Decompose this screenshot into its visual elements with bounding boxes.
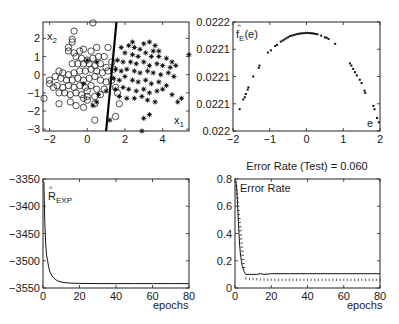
class1-marker [92,73,98,79]
density-point [270,49,272,51]
y-tick-label: −3400 [9,200,40,212]
density-point [356,74,358,76]
y-tick-label: 0 [34,69,40,81]
density-point [350,65,352,67]
risk-plot-panel: 020406080−3550−3500−3450−3400−3350 [9,173,195,302]
density-point [306,32,308,34]
density-point [280,41,282,43]
x-tick-label: 40 [301,290,313,302]
x-tick-label: −1 [263,133,276,145]
density-point [328,38,330,40]
density-plot-panel: −2−10120.0220.02210.02210.02210.0222 [196,16,383,145]
class1-marker [116,101,122,107]
class1-marker [46,81,52,87]
density-point [317,33,319,35]
density-point [247,89,249,91]
y-tick-label: −2 [27,105,40,117]
x-tick-label: 0 [232,290,238,302]
density-point [364,92,366,94]
density-point [298,33,300,35]
y-tick-label: −3350 [9,173,40,185]
density-point [282,40,284,42]
density-hat-icon: ^ [238,23,242,30]
density-point [326,37,328,39]
class1-marker [80,95,86,101]
density-point [302,32,304,34]
density-point [307,32,309,34]
risk-ylabel: REXP [48,190,72,205]
class1-marker [73,102,79,108]
x-tick-label: −2 [43,133,56,145]
density-point [354,71,356,73]
density-point [267,52,269,54]
y-tick-label: 0.4 [217,228,232,240]
density-point [300,32,302,34]
class1-marker [92,117,98,123]
class1-marker [41,95,47,101]
class1-marker [105,44,111,50]
density-point [315,33,317,35]
class1-marker [93,44,99,50]
density-point [296,33,298,35]
y-tick-label: −3450 [9,228,40,240]
density-point [364,90,366,92]
density-ylabel: fE(e) [236,28,258,43]
class1-marker [80,46,86,52]
class1-marker [90,20,96,26]
x-tick-label: 0 [84,133,90,145]
class1-marker [67,99,73,105]
figure: −2024−3−2−1012 −2−10120.0220.02210.02210… [0,0,399,324]
density-point [324,36,326,38]
y-tick-label: −1 [27,87,40,99]
y-tick-label: −3500 [9,255,40,267]
scatter-ylabel: x2 [47,30,58,45]
risk-xlabel: epochs [153,299,189,311]
y-tick-label: 0.0221 [196,71,230,83]
y-tick-label: 2 [34,32,40,44]
x-tick-label: 0 [303,133,309,145]
density-point [276,44,278,46]
x-tick-label: 1 [340,133,346,145]
class1-marker [84,97,90,103]
x-tick-label: 20 [73,290,85,302]
scatter-xlabel: x1 [174,114,185,129]
density-point [291,35,293,37]
density-point [320,35,322,37]
density-point [311,32,313,34]
y-tick-label: 0 [226,282,232,294]
y-tick-label: 0.0221 [196,98,230,110]
density-point [258,65,260,67]
density-point [285,37,287,39]
density-point [372,105,374,107]
x-tick-label: 2 [377,133,383,145]
y-tick-label: 0.2 [217,255,232,267]
density-point [359,79,361,81]
train-error-curve [236,182,380,275]
y-tick-label: 0.0221 [196,43,230,55]
density-point [361,82,363,84]
density-point [294,34,296,36]
density-point [349,62,351,64]
density-point [242,98,244,100]
y-tick-label: 0.022 [202,125,230,137]
error-legend-label: Error Rate [240,182,291,194]
density-point [239,108,241,110]
y-tick-label: 0.8 [217,173,232,185]
density-point [334,43,336,45]
density-point [313,33,315,35]
x-tick-label: 4 [160,133,166,145]
density-point [287,36,289,38]
density-point [244,96,246,98]
density-point [283,38,285,40]
y-tick-label: 0.0222 [196,16,230,28]
class1-marker [112,113,118,119]
class1-marker [88,48,94,54]
density-point [274,45,276,47]
axes-frame [235,179,380,288]
y-tick-label: −3 [27,123,40,135]
density-point [247,86,249,88]
x-tick-label: 0 [40,290,46,302]
error-xlabel: epochs [347,299,383,311]
class1-marker [80,104,86,110]
error-title: Error Rate (Test) = 0.060 [246,160,367,172]
